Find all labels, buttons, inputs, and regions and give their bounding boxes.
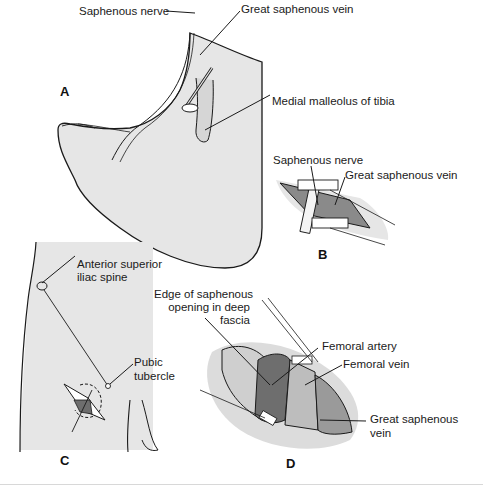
panel-letter-b: B (318, 247, 327, 262)
label-d-femoral-vein: Femoral vein (343, 358, 409, 371)
panel-a-foot-illustration (58, 11, 270, 268)
label-c-pubic-line2: tubercle (134, 370, 175, 383)
label-b-saphenous-nerve: Saphenous nerve (273, 154, 363, 167)
label-c-asis-line2: iliac spine (77, 271, 128, 284)
label-a-great-saphenous-vein: Great saphenous vein (241, 3, 354, 16)
panel-letter-a: A (60, 84, 69, 99)
label-c-pubic-line1: Pubic (134, 356, 163, 369)
label-c-asis-line1: Anterior superior (77, 258, 162, 271)
anatomical-figure: Saphenous nerve Great saphenous vein Med… (0, 0, 483, 488)
bottom-divider (0, 484, 483, 485)
label-d-femoral-artery: Femoral artery (322, 340, 397, 353)
panel-letter-d: D (286, 456, 295, 471)
label-d-edge-line2: opening in deep (154, 301, 250, 314)
label-d-gsv-line1: Great saphenous (370, 413, 458, 426)
label-d-edge-line3: fascia (154, 314, 250, 327)
label-b-great-saphenous-vein: Great saphenous vein (345, 169, 458, 182)
label-d-edge-line1: Edge of saphenous (154, 288, 250, 301)
label-a-saphenous-nerve: Saphenous nerve (79, 5, 169, 18)
label-d-gsv-line2: vein (370, 427, 391, 440)
panel-letter-c: C (60, 453, 69, 468)
label-a-medial-malleolus: Medial malleolus of tibia (272, 95, 395, 108)
